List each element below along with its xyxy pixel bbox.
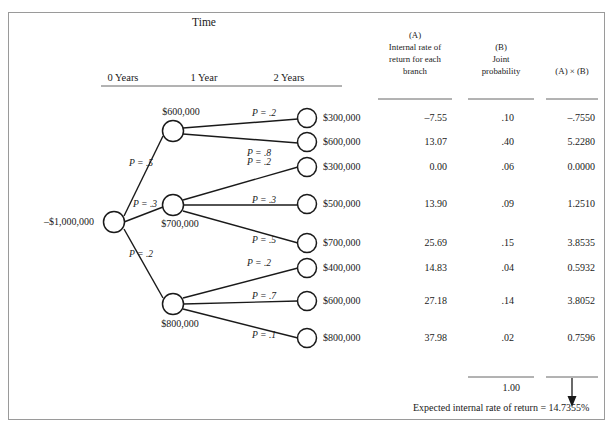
level1-money-1: $700,000 <box>161 219 199 229</box>
level1-prob-2: P = .2 <box>129 249 153 259</box>
irr-value-2: 0.00 <box>397 162 447 172</box>
irr-value-1: 13.07 <box>397 137 447 147</box>
col-a-line4: branch <box>403 67 427 76</box>
col-a-line2: Internal rate of <box>389 43 441 52</box>
product-value-3: 1.2510 <box>545 199 595 209</box>
branch-prob-7: P = .1 <box>252 330 276 340</box>
branch-money-3: $500,000 <box>323 199 361 209</box>
level1-money-2: $800,000 <box>161 319 199 329</box>
joint-probability-total: 1.00 <box>480 383 520 393</box>
joint-prob-0: .10 <box>480 113 514 123</box>
branch-prob-5: P = .2 <box>247 258 271 268</box>
branch-money-1: $600,000 <box>323 137 361 147</box>
branch-prob-0: P = .2 <box>252 108 276 118</box>
joint-prob-1: .40 <box>480 137 514 147</box>
joint-prob-5: .04 <box>480 263 514 273</box>
product-value-1: 5.2280 <box>545 137 595 147</box>
figure-canvas: Time 0 Years 1 Year 2 Years (A) Internal… <box>0 0 613 427</box>
joint-prob-4: .15 <box>480 238 514 248</box>
branch-money-6: $600,000 <box>323 296 361 306</box>
irr-value-4: 25.69 <box>397 238 447 248</box>
product-value-7: 0.7596 <box>545 333 595 343</box>
col-a-line1: (A) <box>409 31 421 40</box>
product-value-2: 0.0000 <box>545 162 595 172</box>
level1-prob-0: P = .5 <box>129 158 153 168</box>
product-value-6: 3.8052 <box>545 296 595 306</box>
branch-money-2: $300,000 <box>323 162 361 172</box>
expected-irr-caption: Expected internal rate of return = 14.73… <box>413 403 589 413</box>
col-b-line1: (B) <box>495 43 507 52</box>
joint-prob-6: .14 <box>480 296 514 306</box>
irr-value-5: 14.83 <box>397 263 447 273</box>
year-header-1: 1 Year <box>191 73 218 84</box>
irr-value-0: –7.55 <box>397 113 447 123</box>
time-axis-title: Time <box>192 17 216 29</box>
branch-money-4: $700,000 <box>323 238 361 248</box>
irr-value-7: 37.98 <box>397 333 447 343</box>
irr-value-6: 27.18 <box>397 296 447 306</box>
root-value-label: –$1,000,000 <box>44 217 94 227</box>
product-value-5: 0.5932 <box>545 263 595 273</box>
col-a-line3: return for each <box>389 55 441 64</box>
year-header-0: 0 Years <box>108 73 139 84</box>
branch-prob-3: P = .3 <box>252 195 276 205</box>
level1-money-0: $600,000 <box>162 107 200 117</box>
joint-prob-3: .09 <box>480 199 514 209</box>
product-value-0: –.7550 <box>545 113 595 123</box>
level1-prob-1: P = .3 <box>133 199 157 209</box>
branch-money-0: $300,000 <box>323 113 361 123</box>
branch-money-5: $400,000 <box>323 263 361 273</box>
col-ab-header: (A) × (B) <box>555 67 588 76</box>
joint-prob-2: .06 <box>480 162 514 172</box>
branch-prob-4: P = .5 <box>252 235 276 245</box>
product-value-4: 3.8535 <box>545 238 595 248</box>
year-header-2: 2 Years <box>274 73 305 84</box>
joint-prob-7: .02 <box>480 333 514 343</box>
col-b-line3: probability <box>482 67 521 76</box>
irr-value-3: 13.90 <box>397 199 447 209</box>
branch-prob-6: P = .7 <box>252 291 276 301</box>
branch-prob-2: P = .2 <box>247 157 271 167</box>
branch-money-7: $800,000 <box>323 333 361 343</box>
col-b-line2: Joint <box>492 55 509 64</box>
